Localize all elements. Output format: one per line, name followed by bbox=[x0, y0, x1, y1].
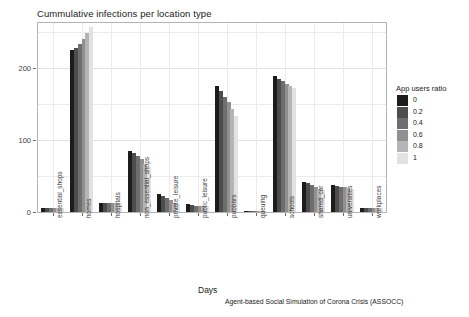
legend-item: 1 bbox=[397, 153, 463, 164]
x-tick-mark bbox=[285, 213, 286, 216]
x-tick-mark bbox=[314, 213, 315, 216]
x-tick-mark bbox=[53, 213, 54, 216]
x-tick-mark bbox=[227, 213, 228, 216]
bar bbox=[292, 88, 296, 212]
gridline-vertical bbox=[256, 23, 257, 212]
legend-swatch bbox=[397, 107, 408, 118]
legend-title: App users ratio bbox=[396, 84, 446, 93]
gridline-vertical bbox=[343, 23, 344, 212]
y-tick-label: 200 bbox=[18, 63, 31, 72]
plot-panel bbox=[37, 22, 387, 213]
x-tick-mark bbox=[343, 213, 344, 216]
legend-label: 0.4 bbox=[413, 119, 423, 126]
x-axis-title: Days bbox=[198, 285, 217, 295]
y-tick-label: 100 bbox=[18, 135, 31, 144]
legend-swatch bbox=[397, 118, 408, 129]
x-tick-mark bbox=[82, 213, 83, 216]
legend-label: 0 bbox=[413, 96, 417, 103]
gridline-vertical bbox=[372, 23, 373, 212]
legend-label: 0.8 bbox=[413, 142, 423, 149]
legend-swatch bbox=[397, 95, 408, 106]
legend-item: 0.8 bbox=[397, 141, 463, 152]
x-tick-mark bbox=[169, 213, 170, 216]
legend-swatch bbox=[397, 153, 408, 164]
y-tick-label: 0 bbox=[27, 208, 31, 217]
gridline-vertical bbox=[169, 23, 170, 212]
gridline-vertical bbox=[111, 23, 112, 212]
chart-container: Cummulative infections per location type… bbox=[0, 0, 469, 317]
legend-item: 0.2 bbox=[397, 107, 463, 118]
y-tick-mark bbox=[33, 68, 36, 69]
chart-caption: Agent-based Social Simulation of Corona … bbox=[225, 298, 403, 305]
plot-area bbox=[38, 23, 386, 212]
legend-swatch bbox=[397, 141, 408, 152]
x-tick-mark bbox=[140, 213, 141, 216]
x-tick-mark bbox=[372, 213, 373, 216]
legend-label: 0.6 bbox=[413, 131, 423, 138]
gridline-vertical bbox=[314, 23, 315, 212]
y-tick-mark bbox=[33, 212, 36, 213]
x-tick-mark bbox=[198, 213, 199, 216]
y-tick-mark bbox=[33, 140, 36, 141]
chart-title: Cummulative infections per location type bbox=[37, 8, 212, 19]
x-tick-mark bbox=[111, 213, 112, 216]
bar bbox=[89, 27, 93, 212]
legend-item: 0.6 bbox=[397, 130, 463, 141]
x-tick-mark bbox=[256, 213, 257, 216]
gridline-vertical bbox=[53, 23, 54, 212]
legend-label: 0.2 bbox=[413, 108, 423, 115]
legend-item: 0 bbox=[397, 95, 463, 106]
legend-swatch bbox=[397, 130, 408, 141]
gridline-vertical bbox=[198, 23, 199, 212]
legend-item: 0.4 bbox=[397, 118, 463, 129]
legend-label: 1 bbox=[413, 154, 417, 161]
